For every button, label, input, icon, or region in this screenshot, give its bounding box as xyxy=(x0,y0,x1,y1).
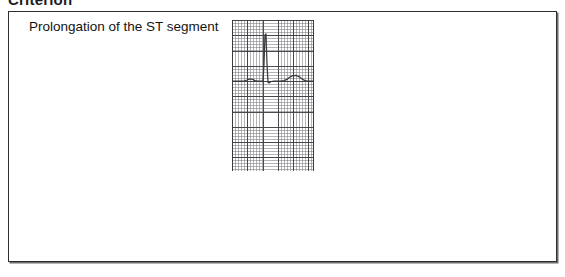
ecg-trace-path xyxy=(232,34,314,83)
ecg-waveform-strip xyxy=(232,20,314,171)
criterion-label: Prolongation of the ST segment xyxy=(29,19,219,35)
page-heading: Criterion xyxy=(8,0,72,6)
figure-box: Prolongation of the ST segment xyxy=(8,11,557,262)
ecg-trace xyxy=(232,20,314,171)
